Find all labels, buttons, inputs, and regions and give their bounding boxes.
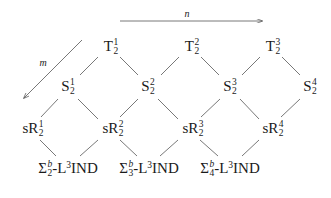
node-sR-1: sR12	[22, 121, 43, 139]
node-sR-3: sR32	[182, 121, 203, 139]
node-sigma-L3IND-3: Σb3-L3IND	[119, 161, 179, 179]
lattice-edges	[40, 57, 300, 156]
node-sigma-L3IND-2: Σb2-L3IND	[38, 161, 98, 179]
node-T-3: T32	[266, 39, 280, 57]
node-S-2: S22	[141, 79, 155, 97]
node-S-4: S42	[303, 79, 317, 97]
node-T-2: T22	[185, 39, 199, 57]
lattice-diagram: n m T12 T22 T32 S12 S22 S32 S42 sR12 sR2…	[0, 0, 331, 198]
node-T-1: T12	[104, 39, 118, 57]
node-sR-4: sR42	[262, 121, 283, 139]
node-sR-2: sR22	[102, 121, 123, 139]
node-S-3: S32	[223, 79, 237, 97]
m-axis-label: m	[39, 57, 46, 68]
node-sigma-L3IND-4: Σb4-L3IND	[200, 161, 260, 179]
n-axis-label: n	[185, 8, 190, 19]
node-S-1: S12	[61, 79, 75, 97]
